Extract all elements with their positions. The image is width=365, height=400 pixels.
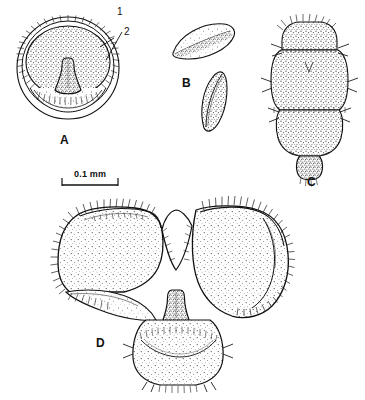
panel-letter-b: B [182, 76, 191, 90]
scale-bar-graphic [62, 178, 118, 186]
panel-c-artwork [261, 14, 358, 187]
panel-letter-a: A [60, 133, 69, 147]
callout-label-2: 2 [124, 26, 130, 37]
plate-artwork [0, 0, 365, 400]
panel-letter-c: C [307, 175, 316, 189]
illustration-plate: A B C D 1 2 0.1 mm [0, 0, 365, 400]
panel-d-artwork [51, 196, 296, 393]
panel-a-artwork [17, 15, 123, 119]
scale-bar-label: 0.1 mm [74, 169, 106, 179]
callout-label-1: 1 [117, 6, 123, 17]
panel-letter-d: D [96, 336, 105, 350]
